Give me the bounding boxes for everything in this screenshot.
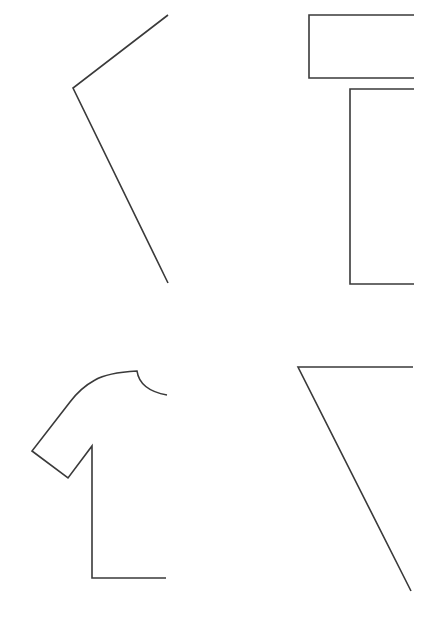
half-angle-shape	[73, 15, 168, 283]
half-tshirt-shape	[32, 371, 167, 578]
half-rectangle-top	[309, 15, 414, 78]
half-rectangle-bottom	[350, 89, 414, 284]
half-triangle-shape	[298, 367, 413, 591]
drawing-canvas	[0, 0, 442, 623]
